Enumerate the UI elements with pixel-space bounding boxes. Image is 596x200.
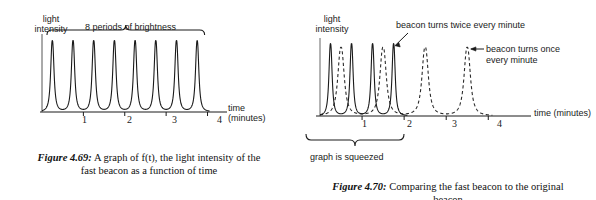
x-axis-label-time-minutes: time (minutes) [534, 108, 591, 119]
x-tick-1: 1 [362, 118, 367, 129]
figure-panel-right: light intensity beacon turns twice every… [298, 0, 596, 200]
figure-caption-left-text: A graph of f(t), the light intensity of … [81, 152, 261, 176]
series-fast-beacon-squeezed [320, 44, 407, 116]
leader-arrowhead-slow-beacon [471, 47, 476, 51]
x-tick-1: 1 [82, 114, 87, 125]
figure-caption-left-number: Figure 4.69: [38, 152, 92, 163]
chart-beacon-comparison [298, 0, 596, 175]
x-tick-2: 2 [127, 114, 132, 125]
figure-panel-left: light intensity 8 periods of brightness … [0, 0, 298, 200]
figure-caption-right-text: Comparing the fast beacon to the origina… [387, 181, 564, 200]
brace-graph-squeezed [306, 134, 404, 146]
figure-caption-right: Figure 4.70: Comparing the fast beacon t… [306, 167, 590, 200]
leader-arrowhead-fast-beacon [395, 42, 400, 46]
x-tick-4: 4 [497, 118, 502, 129]
figure-caption-right-number: Figure 4.70: [332, 181, 386, 192]
brace-8-periods [47, 25, 205, 35]
x-tick-3: 3 [452, 118, 457, 129]
x-tick-2: 2 [407, 118, 412, 129]
x-tick-3: 3 [172, 114, 177, 125]
leader-line-fast-beacon [395, 33, 408, 46]
series-fast-beacon [42, 41, 210, 112]
series-original-beacon [320, 47, 492, 115]
brace-label-squeezed: graph is squeezed [310, 152, 384, 163]
x-tick-4: 4 [217, 114, 222, 125]
figure-caption-left: Figure 4.69: A graph of f(t), the light … [8, 138, 290, 177]
x-axis-label-minutes: (minutes) [228, 113, 266, 124]
x-axis-label-time: time [228, 103, 245, 114]
